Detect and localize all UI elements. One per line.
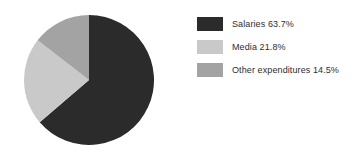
pie-svg bbox=[24, 15, 154, 145]
pie-slice-group bbox=[24, 15, 154, 145]
legend-swatch-media bbox=[197, 40, 223, 54]
chart-legend: Salaries 63.7% Media 21.8% Other expendi… bbox=[197, 17, 357, 86]
legend-swatch-other-expenditures bbox=[197, 63, 223, 77]
legend-label-salaries: Salaries 63.7% bbox=[232, 17, 294, 31]
pie-chart-figure: Salaries 63.7% Media 21.8% Other expendi… bbox=[0, 0, 364, 159]
pie-chart-plot bbox=[24, 15, 154, 145]
legend-item-media: Media 21.8% bbox=[197, 40, 357, 54]
legend-label-media: Media 21.8% bbox=[232, 40, 286, 54]
legend-item-other-expenditures: Other expenditures 14.5% bbox=[197, 63, 357, 77]
legend-label-other-expenditures: Other expenditures 14.5% bbox=[232, 63, 339, 77]
legend-swatch-salaries bbox=[197, 17, 223, 31]
legend-item-salaries: Salaries 63.7% bbox=[197, 17, 357, 31]
